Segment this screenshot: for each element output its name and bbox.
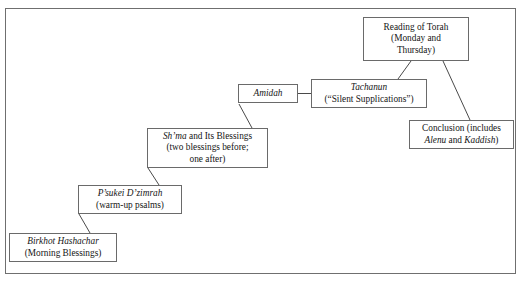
node-conclusion-alenu: Alenu [425, 135, 447, 145]
node-conclusion-paren: ) [495, 135, 498, 145]
flowchart-figure: Reading of Torah (Monday and Thursday) T… [0, 0, 525, 282]
connector-torah-conclusion [443, 61, 470, 120]
connector-birkhot-psukei [79, 214, 90, 233]
node-conclusion[interactable]: Conclusion (includes Alenu and Kaddish) [409, 120, 514, 149]
node-tachanun[interactable]: Tachanun (“Silent Supplications”) [311, 79, 427, 108]
node-psukei-dzimrah[interactable]: P’sukei D’zimrah (warm-up psalms) [78, 185, 182, 214]
node-conclusion-kaddish: Kaddish [464, 135, 495, 145]
node-torah-line3: Thursday) [397, 45, 435, 56]
node-psukei-line2: (warm-up psalms) [96, 200, 164, 211]
node-birkhot-line1: Birkhot Hashachar [27, 236, 99, 247]
node-shma-and-its-blessings[interactable]: Sh’ma and Its Blessings (two blessings b… [147, 128, 268, 168]
node-psukei-line1: P’sukei D’zimrah [98, 188, 163, 199]
node-shma-title: Sh’ma [163, 131, 187, 141]
node-torah-line2: (Monday and [391, 33, 441, 44]
node-birkhot-line2: (Morning Blessings) [25, 248, 102, 259]
node-amidah-line1: Amidah [254, 88, 283, 99]
connector-tachanun-torah [398, 61, 411, 79]
connector-psukei-shma [148, 168, 159, 185]
node-tachanun-line2: (“Silent Supplications”) [324, 94, 413, 105]
node-tachanun-line1: Tachanun [351, 82, 387, 93]
node-conclusion-line1: Conclusion (includes [422, 123, 501, 134]
node-birkhot-hashachar[interactable]: Birkhot Hashachar (Morning Blessings) [9, 233, 117, 262]
node-conclusion-and: and [446, 135, 464, 145]
node-shma-subtitle: and Its Blessings [187, 131, 252, 141]
node-amidah[interactable]: Amidah [238, 84, 298, 103]
node-shma-line1: Sh’ma and Its Blessings [163, 131, 252, 142]
node-shma-line3: one after) [190, 154, 226, 165]
connector-shma-amidah [239, 104, 252, 128]
node-conclusion-line2: Alenu and Kaddish) [425, 135, 499, 146]
node-reading-of-torah[interactable]: Reading of Torah (Monday and Thursday) [363, 17, 469, 61]
node-shma-line2: (two blessings before; [166, 142, 248, 153]
node-torah-line1: Reading of Torah [384, 22, 449, 33]
